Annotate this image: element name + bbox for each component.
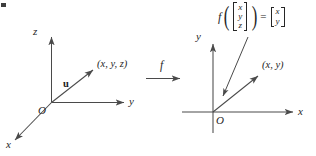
left-axis-label-x: x [6, 139, 11, 150]
input-entry-z: z [239, 21, 243, 30]
left-origin-label: O [38, 105, 46, 116]
right-point-label: (x, y) [262, 60, 284, 71]
formula-function-name: f [218, 11, 221, 23]
output-entry-y: y [276, 17, 280, 26]
formula-close-paren: ) [252, 3, 258, 30]
left-axis-x [15, 103, 52, 141]
output-vector-entries: x y [274, 7, 281, 27]
vector-u-label: u [63, 79, 69, 90]
left-axis-label-z: z [33, 26, 37, 37]
right-vector [213, 76, 258, 112]
input-bracket-right [244, 2, 248, 31]
left-vector-u [52, 70, 94, 103]
linear-transformation-figure: z y x O u (x, y, z) f y x O (x, y) f ( x… [0, 0, 316, 156]
formula-input-vector: x y z [231, 2, 250, 31]
mapping-function-label: f [160, 60, 163, 72]
input-vector-entries: x y z [237, 2, 244, 31]
right-origin-label: O [216, 115, 224, 126]
left-point-label: (x, y, z) [97, 59, 127, 70]
transformation-formula: f ( x y z ) = x y [218, 2, 287, 31]
right-axis-label-x: x [298, 106, 303, 117]
right-axis-label-y: y [196, 31, 201, 42]
output-bracket-right [281, 7, 285, 27]
left-axis-label-y: y [129, 96, 134, 107]
formula-equals-sign: = [260, 11, 266, 22]
formula-output-vector: x y [268, 7, 287, 27]
formula-open-paren: ( [224, 3, 230, 30]
